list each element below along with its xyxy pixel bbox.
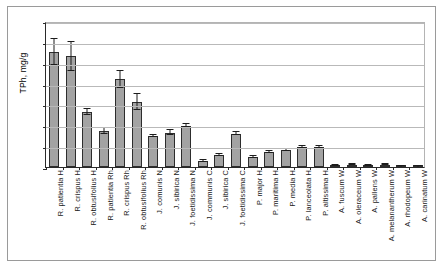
bar: [181, 126, 191, 167]
error-bar-cap-top: [232, 131, 239, 132]
error-bar-cap-bottom: [117, 87, 124, 88]
gridline: [46, 148, 424, 149]
x-tick-label: P. maritima H: [271, 170, 280, 215]
error-bar-cap-top: [166, 129, 173, 130]
x-tick-label: R. obtusifolius Rh: [139, 170, 148, 230]
x-tick-label: A. oleraceum W: [354, 170, 363, 224]
error-bar-cap-top: [183, 123, 190, 124]
y-tick-mark: [43, 86, 46, 87]
error-bar-cap-bottom: [348, 164, 355, 165]
error-bar-cap-top: [266, 150, 273, 151]
y-tick-mark: [43, 65, 46, 66]
error-bar-cap-bottom: [199, 161, 206, 162]
error-bar-cap-bottom: [332, 165, 339, 166]
error-bar-cap-top: [133, 93, 140, 94]
error-bar-cap-bottom: [67, 70, 74, 71]
chart-figure: TPh, mg/g 0100200300400500600700 R. pati…: [0, 0, 443, 274]
error-bar-cap-top: [150, 134, 157, 135]
gridline: [46, 127, 424, 128]
plot-area: [45, 22, 425, 168]
x-tick-label: R. crispus Rh: [122, 170, 131, 216]
error-bar-cap-top: [299, 145, 306, 146]
bar: [66, 56, 76, 167]
bar: [231, 134, 241, 167]
y-tick-mark: [43, 23, 46, 24]
y-tick-mark: [43, 44, 46, 45]
y-tick-mark: [43, 127, 46, 128]
error-bar-cap-top: [51, 38, 58, 39]
gridline: [46, 23, 424, 24]
bar: [297, 147, 307, 167]
bar: [314, 147, 324, 167]
error-bar-cap-bottom: [282, 150, 289, 151]
x-tick-label: J. sibirica C: [221, 170, 230, 210]
x-tick-label: R. crispus H: [73, 170, 82, 211]
bar: [165, 133, 175, 167]
x-tick-label: J. sibirica N: [172, 170, 181, 210]
bar: [49, 52, 59, 167]
error-bar-cap-bottom: [166, 134, 173, 135]
error-bar: [70, 42, 71, 70]
error-bar-cap-top: [67, 41, 74, 42]
error-bar-cap-bottom: [266, 152, 273, 153]
bar: [264, 152, 274, 167]
x-tick-label: R. obtusifolius H: [89, 170, 98, 226]
x-tick-label: P. media H: [288, 170, 297, 207]
x-tick-label: J. foetidissima C: [238, 170, 247, 226]
x-tick-label: R. patientia Rh: [106, 170, 115, 220]
x-tick-label: A. melanantherum W: [387, 170, 396, 241]
error-bar-cap-bottom: [398, 165, 405, 166]
x-tick-label: J. communis C: [205, 170, 214, 220]
error-bar-cap-top: [84, 108, 91, 109]
x-tick-label: P. lanceolata H: [304, 170, 313, 221]
bar: [248, 157, 258, 167]
gridline: [46, 44, 424, 45]
x-tick-label: P. altissima H: [321, 170, 330, 216]
x-tick-label: A. carinatum W: [420, 170, 429, 222]
gridline: [46, 86, 424, 87]
y-tick-mark: [43, 106, 46, 107]
bar: [214, 155, 224, 167]
error-bar-cap-bottom: [365, 165, 372, 166]
bar: [148, 136, 158, 167]
x-tick-label: R. patientia H: [56, 170, 65, 216]
x-tick-label: J. foetidissima N: [188, 170, 197, 226]
bar: [132, 102, 142, 167]
error-bar-cap-bottom: [150, 136, 157, 137]
y-tick-mark: [43, 148, 46, 149]
bar: [82, 112, 92, 167]
bar: [115, 79, 125, 167]
error-bar-cap-bottom: [84, 114, 91, 115]
x-tick-label: A. rhodopeum W: [403, 170, 412, 227]
error-bar-cap-top: [117, 70, 124, 71]
x-tick-label: A. fuscum W: [337, 170, 346, 213]
x-tick-label: P. major H: [255, 170, 264, 205]
gridline: [46, 106, 424, 107]
gridline: [46, 65, 424, 66]
error-bar-cap-bottom: [381, 164, 388, 165]
error-bar-cap-bottom: [414, 165, 421, 166]
error-bar: [136, 94, 137, 110]
x-tick-label: A. pallens W: [370, 170, 379, 213]
error-bar-cap-bottom: [100, 133, 107, 134]
bar: [198, 161, 208, 167]
x-tick-label: J. comunis N: [155, 170, 164, 214]
x-axis-labels: R. patientia HR. crispus HR. obtusifoliu…: [45, 170, 425, 262]
error-bar-cap-bottom: [249, 157, 256, 158]
bar: [281, 150, 291, 167]
error-bar-cap-bottom: [133, 109, 140, 110]
y-axis-title: TPh, mg/g: [18, 13, 28, 133]
error-bar-cap-bottom: [216, 155, 223, 156]
error-bar-cap-bottom: [232, 134, 239, 135]
